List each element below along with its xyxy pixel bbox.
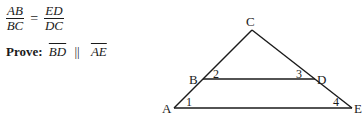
angle-4: 4 [333,95,339,109]
label-d: D [317,72,326,87]
label-c: C [246,14,255,29]
label-a: A [162,101,172,116]
label-e: E [354,101,362,116]
label-b: B [189,72,198,87]
angle-1: 1 [186,95,192,109]
angle-2: 2 [213,67,219,81]
triangle-diagram: C B D A E 2 3 1 4 [0,0,364,120]
angle-3: 3 [296,67,302,81]
